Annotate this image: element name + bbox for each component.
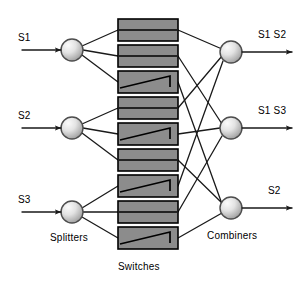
output-label-2: S1 S3 bbox=[258, 106, 286, 116]
link-sp2-sw5 bbox=[83, 128, 118, 134]
combiner-1-body bbox=[220, 41, 242, 63]
output-label-1: S1 S2 bbox=[258, 30, 286, 40]
switch-1[interactable] bbox=[118, 19, 178, 41]
splitter-node-group bbox=[61, 39, 83, 223]
output-label-3: S2 bbox=[268, 186, 281, 196]
splitter-1[interactable] bbox=[61, 39, 83, 61]
link-sp2-sw6 bbox=[82, 133, 118, 160]
group-label-switches: Switches bbox=[118, 262, 160, 272]
switch-8[interactable] bbox=[118, 201, 178, 223]
link-sp2-sw4 bbox=[82, 108, 118, 124]
link-sw7-cb1 bbox=[178, 61, 223, 186]
switch-3[interactable] bbox=[118, 71, 178, 93]
combiner-2-body bbox=[220, 117, 242, 139]
link-sp1-sw1 bbox=[82, 30, 118, 46]
splitter-3-body bbox=[61, 201, 83, 223]
group-label-splitters: Splitters bbox=[50, 233, 88, 243]
link-sw8-cb2 bbox=[178, 136, 222, 212]
switch-7[interactable] bbox=[118, 175, 178, 197]
switch-4[interactable] bbox=[118, 97, 178, 119]
switch-2[interactable] bbox=[118, 45, 178, 67]
combiner-3[interactable] bbox=[220, 197, 242, 219]
switch-network-diagram: S1S2S3S1 S2S1 S3S2SplittersSwitchesCombi… bbox=[0, 0, 302, 282]
combiner-2[interactable] bbox=[220, 117, 242, 139]
combiner-node-group bbox=[220, 41, 242, 219]
link-sp1-sw3 bbox=[82, 55, 118, 82]
output-arrow-group bbox=[242, 52, 292, 208]
splitter-link-group bbox=[82, 30, 118, 238]
splitter-2-body bbox=[61, 117, 83, 139]
splitter-2[interactable] bbox=[61, 117, 83, 139]
combiner-1[interactable] bbox=[220, 41, 242, 63]
splitter-3[interactable] bbox=[61, 201, 83, 223]
input-label-1: S1 bbox=[18, 33, 31, 43]
input-arrow-group bbox=[22, 50, 61, 212]
switch-5[interactable] bbox=[118, 123, 178, 145]
link-sp3-sw7 bbox=[82, 186, 118, 208]
combiner-link-group bbox=[178, 30, 223, 238]
splitter-1-body bbox=[61, 39, 83, 61]
group-label-combiners: Combiners bbox=[207, 231, 257, 241]
switch-group bbox=[118, 19, 178, 249]
switch-6[interactable] bbox=[118, 149, 178, 171]
link-sp1-sw2 bbox=[83, 50, 118, 56]
input-label-2: S2 bbox=[18, 111, 31, 121]
input-label-3: S3 bbox=[18, 195, 31, 205]
link-sw2-cb2 bbox=[178, 56, 222, 124]
combiner-3-body bbox=[220, 197, 242, 219]
switch-9[interactable] bbox=[118, 227, 178, 249]
link-sw1-cb1 bbox=[178, 30, 222, 49]
